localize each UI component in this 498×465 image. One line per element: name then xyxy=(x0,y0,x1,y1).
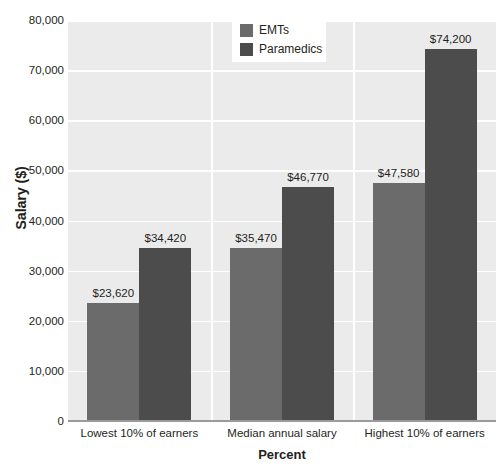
y-axis-tick-label: 20,000 xyxy=(2,315,64,327)
bar-value-label: $74,200 xyxy=(411,33,491,46)
y-axis-tick-label: 0 xyxy=(2,415,64,427)
legend-item-emts: EMTs xyxy=(240,22,289,38)
page-title xyxy=(68,0,496,3)
x-axis-category-label: Lowest 10% of earners xyxy=(68,426,211,440)
y-axis-tick-label: 30,000 xyxy=(2,265,64,277)
bar-paramedics xyxy=(425,49,477,421)
bar-value-label: $34,420 xyxy=(125,232,205,245)
bar-paramedics xyxy=(139,248,191,421)
y-axis-tick-label: 50,000 xyxy=(2,164,64,176)
bar-chart-figure: Salary ($) 80,00070,00060,00050,00040,00… xyxy=(0,0,498,465)
x-axis-title: Percent xyxy=(68,447,496,462)
legend-swatch-icon-paramedics xyxy=(240,43,253,56)
legend-label-emts: EMTs xyxy=(259,24,289,37)
gridline-category-divider xyxy=(211,20,213,421)
legend-item-paramedics: Paramedics xyxy=(240,41,322,57)
gridline-category-divider xyxy=(353,20,355,421)
bar-value-label: $46,770 xyxy=(268,171,348,184)
bar-emts xyxy=(373,183,425,421)
y-axis-tick-label: 70,000 xyxy=(2,64,64,76)
y-axis-tick-labels: 80,00070,00060,00050,00040,00030,00020,0… xyxy=(0,0,64,465)
plot-area xyxy=(68,20,496,421)
chart-legend: EMTs Paramedics xyxy=(232,14,326,62)
y-axis-tick-label: 60,000 xyxy=(2,114,64,126)
x-axis-line xyxy=(68,420,496,422)
bar-value-label: $35,470 xyxy=(216,232,296,245)
bar-value-label: $23,620 xyxy=(73,287,153,300)
y-axis-tick-label: 10,000 xyxy=(2,365,64,377)
bar-emts xyxy=(230,248,282,421)
legend-swatch-icon-emts xyxy=(240,24,253,37)
y-axis-tick-label: 40,000 xyxy=(2,215,64,227)
x-axis-category-label: Median annual salary xyxy=(211,426,354,440)
legend-label-paramedics: Paramedics xyxy=(259,43,322,56)
bar-paramedics xyxy=(282,187,334,421)
bar-emts xyxy=(87,303,139,421)
x-axis-category-label: Highest 10% of earners xyxy=(353,426,496,440)
bar-value-label: $47,580 xyxy=(359,167,439,180)
y-axis-tick-label: 80,000 xyxy=(2,14,64,26)
